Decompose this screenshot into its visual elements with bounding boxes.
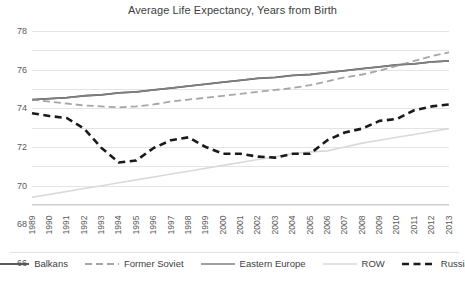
chart-title: Average Life Expectancy, Years from Birt…	[0, 4, 465, 16]
x-axis-tick-text: 2009	[375, 216, 385, 235]
x-axis-tick-text: 2006	[322, 216, 332, 235]
legend-item-balkans[interactable]: Balkans	[0, 258, 68, 269]
legend-item-russia[interactable]: Russia	[402, 258, 465, 269]
legend-item-row[interactable]: ROW	[323, 258, 385, 269]
legend-label: Russia	[441, 258, 465, 269]
x-axis-tick-text: 1999	[201, 216, 211, 235]
x-axis-tick-text: 2003	[270, 216, 280, 235]
y-axis-tick-label: 74	[17, 103, 27, 113]
x-axis-tick-text: 2002	[253, 216, 263, 235]
y-axis-tick-label: 70	[17, 181, 27, 191]
series-line-russia	[32, 104, 449, 162]
y-axis-tick-label: 78	[17, 26, 27, 36]
legend-label: ROW	[362, 258, 385, 269]
x-axis-tick-text: 1990	[44, 216, 54, 235]
x-axis-tick-text: 2013	[444, 216, 454, 235]
x-axis-tick-text: 1997	[166, 216, 176, 235]
x-axis-tick-text: 1991	[62, 216, 72, 235]
x-axis-tick-text: 1995	[131, 216, 141, 235]
x-axis-tick-text: 2010	[392, 216, 402, 235]
legend-item-former-soviet[interactable]: Former Soviet	[85, 258, 184, 269]
x-axis-tick-text: 2012	[427, 216, 437, 235]
legend-swatch-former-soviet	[85, 259, 119, 269]
y-axis-tick-label: 72	[17, 142, 27, 152]
legend-swatch-russia	[402, 259, 436, 269]
legend-label: Eastern Europe	[240, 258, 306, 269]
plot-area: 78767472706866646260	[32, 31, 449, 205]
chart-legend: BalkansFormer SovietEastern EuropeROWRus…	[0, 258, 465, 269]
x-axis-tick-text: 2000	[218, 216, 228, 235]
x-axis-tick-text: 1993	[97, 216, 107, 235]
x-axis-tick-text: 1992	[79, 216, 89, 235]
x-axis-tick-text: 2004	[288, 216, 298, 235]
x-axis-tick-text: 1998	[183, 216, 193, 235]
legend-item-eastern-europe[interactable]: Eastern Europe	[201, 258, 306, 269]
x-axis-tick-text: 2007	[340, 216, 350, 235]
legend-swatch-row	[323, 259, 357, 269]
chart-container: Average Life Expectancy, Years from Birt…	[0, 0, 465, 284]
legend-label: Balkans	[34, 258, 68, 269]
x-axis-tick-text: 2001	[236, 216, 246, 235]
axis-separator	[10, 252, 459, 253]
y-axis-tick-label: 68	[17, 219, 27, 229]
x-axis-tick-text: 2008	[357, 216, 367, 235]
legend-label: Former Soviet	[124, 258, 184, 269]
gridline: 60	[32, 205, 449, 206]
legend-swatch-balkans	[0, 259, 29, 269]
x-axis-labels: 1989199019911992199319941995199619971998…	[32, 207, 449, 251]
legend-swatch-eastern-europe	[201, 259, 235, 269]
x-axis-tick-text: 2011	[409, 216, 419, 234]
x-axis-tick-text: 1994	[114, 216, 124, 235]
x-axis-tick-text: 1996	[149, 216, 159, 235]
y-axis-tick-label: 76	[17, 65, 27, 75]
x-axis-tick-text: 2005	[305, 216, 315, 235]
series-lines	[32, 31, 449, 205]
x-axis-tick-text: 1989	[27, 216, 37, 235]
